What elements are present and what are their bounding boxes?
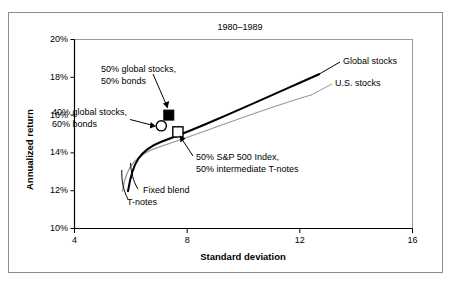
annotation-50-global-50-bonds-line2: 50% bonds	[101, 76, 176, 88]
annotation-50-sp500-50-tnotes-line1: 50% S&P 500 Index,	[196, 152, 298, 164]
leader-50-sp500-50-tnotes	[180, 136, 193, 156]
annotation-40-global-60-bonds-line1: 40% global stocks,	[52, 107, 127, 119]
annotation-40-global-60-bonds-line2: 60% bonds	[52, 119, 127, 131]
x-tick-label-4: 4	[64, 235, 85, 246]
leader-40-global-60-bonds	[130, 120, 156, 129]
y-axis-title: Annualized return	[24, 109, 35, 190]
x-tick-label-16: 16	[402, 235, 423, 246]
marker-50-global-50-bonds	[164, 110, 174, 120]
chart-figure: 1980–1989 20% 18% 16% 14% 12% 10% 4 8 12…	[0, 0, 451, 286]
x-tick-label-12: 12	[289, 235, 310, 246]
y-tick-label-10: 10%	[26, 223, 68, 234]
x-tick-label-8: 8	[177, 235, 198, 246]
annotation-50-sp500-50-tnotes-line2: 50% intermediate T-notes	[196, 164, 298, 176]
leader-us-stocks-label	[311, 84, 332, 95]
annotation-50-sp500-50-tnotes: 50% S&P 500 Index, 50% intermediate T-no…	[196, 152, 298, 175]
annotation-t-notes: T-notes	[127, 197, 157, 209]
annotation-fixed-blend: Fixed blend	[143, 185, 190, 197]
x-axis-title: Standard deviation	[163, 251, 323, 262]
x-tick-marks	[75, 229, 413, 234]
marker-40-global-60-bonds	[156, 121, 166, 131]
annotation-50-global-50-bonds: 50% global stocks, 50% bonds	[101, 64, 176, 87]
y-tick-label-20: 20%	[26, 34, 68, 45]
marker-50-sp500-50-tnotes	[173, 127, 183, 137]
label-us-stocks: U.S. stocks	[335, 78, 381, 89]
label-global-stocks: Global stocks	[343, 56, 397, 67]
outer-frame	[9, 13, 443, 273]
series-us-stocks	[122, 95, 311, 191]
annotation-50-global-50-bonds-line1: 50% global stocks,	[101, 64, 176, 76]
chart-title: 1980–1989	[180, 22, 300, 33]
leader-global-stocks-label	[319, 62, 340, 74]
annotation-40-global-60-bonds: 40% global stocks, 60% bonds	[52, 107, 127, 130]
y-tick-label-18: 18%	[26, 72, 68, 83]
